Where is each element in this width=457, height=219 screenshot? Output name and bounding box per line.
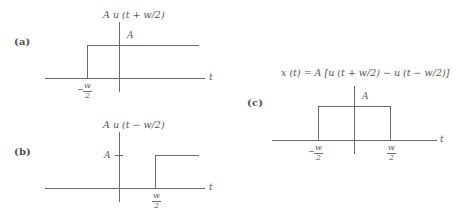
panel-c-expression: x (t) = A [u (t + w/2) − u (t − w/2)] [281,67,449,78]
panel-c-tick-numerator-right: w [387,144,396,152]
panel-b-axis-label: t [209,182,213,192]
panel-a-amplitude-label: A [127,30,134,40]
panel-c-waveform [273,107,430,141]
panel-c-axis-label: t [440,134,444,144]
panel-a-tick-numerator: w [83,82,92,90]
figure-canvas: (a) A u (t + w/2) A t − w 2 (b) A u (t −… [0,0,457,219]
panel-a-expression: A u (t + w/2) [103,9,165,20]
panel-b-graph [45,132,205,202]
panel-a-tick-sign: − [77,86,84,94]
panel-c-graph [272,86,437,154]
panel-b-expression: A u (t − w/2) [103,119,165,130]
panel-a-tick-label-minus-w-over-2: − w 2 [83,82,92,100]
figure-vector-graphics [0,0,457,219]
panel-a-graph [45,22,205,92]
panel-a-axis-label: t [209,72,213,82]
panel-c-tick-label-w-over-2: w 2 [387,144,396,162]
panel-label-c: (c) [247,97,263,108]
panel-b-waveform [46,156,199,189]
panel-c-tick-sign-left: − [308,148,315,156]
panel-c-tick-denominator-left: 2 [314,154,323,162]
panel-c-tick-denominator-right: 2 [387,154,396,162]
panel-a-waveform [46,46,199,79]
panel-b-tick-denominator: 2 [152,202,161,210]
panel-c-tick-label-minus-w-over-2: − w 2 [314,144,323,162]
panel-b-amplitude-label: A [104,150,111,160]
panel-label-b: (b) [14,146,31,157]
panel-b-tick-label-w-over-2: w 2 [152,192,161,210]
panel-c-amplitude-label: A [362,91,369,101]
panel-b-tick-numerator: w [152,192,161,200]
panel-a-tick-denominator: 2 [83,92,92,100]
panel-label-a: (a) [14,36,31,47]
panel-c-tick-numerator-left: w [314,144,323,152]
